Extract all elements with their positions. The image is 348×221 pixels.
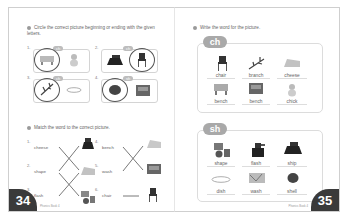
wash-picture-icon xyxy=(248,171,266,185)
ch-label: ch xyxy=(203,36,227,48)
letter-tag: ch xyxy=(123,46,133,51)
exercise3-instruction: Write the word for the picture. xyxy=(193,25,333,31)
bench-picture-icon xyxy=(213,82,229,96)
match-word: shape xyxy=(34,169,46,174)
answer-word[interactable]: shell xyxy=(277,189,307,195)
right-page: Write the word for the picture. ch chair… xyxy=(174,7,340,212)
answer-word[interactable]: flash xyxy=(242,161,270,167)
answer-word[interactable]: branch xyxy=(242,73,270,79)
item-number: 2. xyxy=(95,45,98,50)
exercise1-instruction: Circle the correct picture beginning or … xyxy=(27,25,157,36)
bullet-icon xyxy=(27,26,31,30)
sh-label: sh xyxy=(203,123,227,135)
cheese-picture-icon xyxy=(283,58,301,68)
match-word: wash xyxy=(102,169,112,174)
footer-text: Phonics Book 4 xyxy=(40,204,59,208)
exercise2-instruction: Match the word to the correct picture. xyxy=(27,125,167,131)
wash-picture-icon xyxy=(135,83,151,97)
match-word: cheese xyxy=(34,145,48,150)
page-number: 34 xyxy=(9,189,37,211)
answer-word[interactable]: chick xyxy=(277,99,307,105)
chick-picture-icon xyxy=(287,83,297,97)
shapes-picture-icon xyxy=(80,190,96,204)
match-word: chair xyxy=(102,193,112,198)
item-number: 4. xyxy=(95,139,98,144)
item-number: 1. xyxy=(27,139,30,144)
item-number: 1. xyxy=(27,45,30,50)
match-word: bench xyxy=(102,145,114,150)
bench-picture-icon xyxy=(39,54,55,66)
answer-word[interactable]: ship xyxy=(277,161,307,167)
item-number: 5. xyxy=(95,163,98,168)
item-number: 3. xyxy=(27,75,30,80)
answer-word[interactable]: cheese xyxy=(277,73,307,79)
cheese-picture-icon xyxy=(146,139,162,149)
item-number: 2. xyxy=(27,163,30,168)
branch-picture-icon xyxy=(39,82,55,96)
answer-word[interactable]: bench xyxy=(207,99,235,105)
match-lines-right xyxy=(121,142,145,202)
iron-picture-icon xyxy=(81,138,95,150)
chair-picture-icon xyxy=(137,53,147,67)
answer-word[interactable]: dish xyxy=(207,189,235,195)
footer-text: Phonics Book 4 xyxy=(289,204,308,208)
cheese-picture-icon xyxy=(80,166,96,176)
ship-picture-icon xyxy=(283,142,303,156)
iron-picture-icon xyxy=(106,55,124,67)
answer-word[interactable]: wash xyxy=(242,189,270,195)
dish-picture-icon xyxy=(66,87,82,93)
match-word: flash xyxy=(34,193,43,198)
letter-tag: sh xyxy=(123,76,133,81)
left-page: Circle the correct picture beginning or … xyxy=(8,7,174,212)
answer-word[interactable]: chair xyxy=(207,73,235,79)
chair-picture-icon xyxy=(216,56,228,71)
dish-picture-icon xyxy=(211,176,231,183)
wash-picture-icon xyxy=(146,163,162,175)
match-lines-left xyxy=(57,142,81,202)
chair-picture-icon xyxy=(148,188,158,202)
bench-picture-icon xyxy=(248,82,264,96)
flash-picture-icon xyxy=(250,142,266,158)
item-number: 6. xyxy=(95,187,98,192)
shell-picture-icon xyxy=(287,172,299,184)
chick-picture-icon xyxy=(69,53,79,67)
answer-word[interactable]: bench xyxy=(242,99,270,105)
item-number: 4. xyxy=(95,75,98,80)
bullet-icon xyxy=(27,126,31,130)
shell-picture-icon xyxy=(108,84,122,96)
branch-picture-icon xyxy=(248,56,266,70)
answer-word[interactable]: shape xyxy=(207,161,235,167)
shapes-picture-icon xyxy=(213,142,231,158)
bullet-icon xyxy=(193,26,197,30)
